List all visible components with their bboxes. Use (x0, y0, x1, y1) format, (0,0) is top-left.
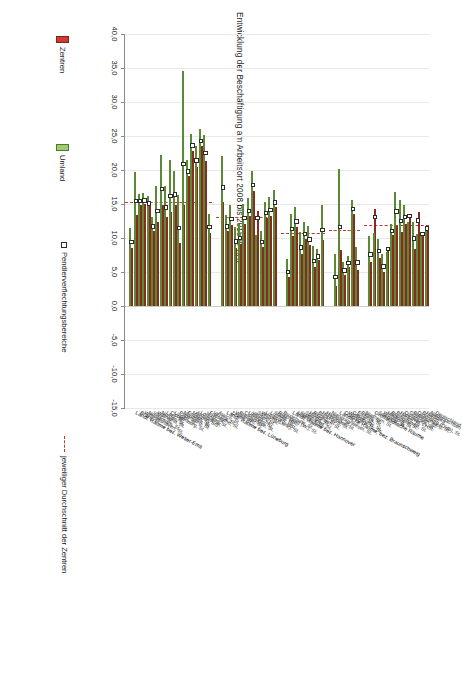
bar-zentren (344, 275, 346, 306)
marker-pendlerverflechtung (234, 239, 238, 243)
marker-pendlerverflechtung (373, 215, 377, 219)
marker-pendlerverflechtung (338, 225, 342, 229)
bar-zentren (357, 270, 359, 306)
bar-umland (416, 234, 418, 306)
marker-pendlerverflechtung (399, 219, 403, 223)
bar-zentren (201, 146, 203, 306)
bar-zentren (296, 227, 298, 306)
bar-umland (134, 172, 136, 306)
marker-pendlerverflechtung (381, 264, 385, 268)
bar-umland (355, 247, 357, 306)
bar-umland (255, 235, 257, 306)
marker-pendlerverflechtung (320, 228, 324, 232)
bar-umland (156, 186, 158, 306)
group-average-line (329, 230, 359, 231)
x-axis-line (124, 34, 125, 408)
bar-zentren (318, 260, 320, 306)
bar-zentren (427, 228, 429, 306)
marker-pendlerverflechtung (155, 209, 159, 213)
marker-pendlerverflechtung (225, 224, 229, 228)
bar-zentren (149, 206, 151, 306)
bar-umland (381, 254, 383, 306)
marker-pendlerverflechtung (190, 143, 194, 147)
legend-item-umland: Umland (56, 144, 69, 181)
bar-umland (268, 197, 270, 306)
bar-zentren (136, 215, 138, 306)
bar-umland (151, 217, 153, 306)
bar-umland (299, 232, 301, 306)
bar-zentren (131, 248, 133, 306)
axis-tick (121, 68, 125, 69)
marker-pendlerverflechtung (390, 229, 394, 233)
bar-zentren (305, 239, 307, 306)
bar-zentren (179, 243, 181, 306)
bar-umland (182, 71, 184, 306)
bar-zentren (262, 247, 264, 306)
bar-zentren (205, 161, 207, 306)
bar-umland (351, 200, 353, 306)
gridline (125, 340, 429, 341)
gridline (125, 374, 429, 375)
bar-zentren (209, 233, 211, 306)
bar-zentren (192, 151, 194, 306)
bar-umland (190, 134, 192, 306)
gridline (125, 136, 429, 137)
bar-umland (399, 200, 401, 306)
average-dash-icon (64, 436, 65, 452)
bar-zentren (240, 244, 242, 306)
axis-tick (121, 340, 125, 341)
bar-zentren (353, 214, 355, 306)
marker-pendlerverflechtung (394, 209, 398, 213)
marker-pendlerverflechtung (255, 216, 259, 220)
bar-zentren (270, 216, 272, 306)
gridline (125, 170, 429, 171)
axis-tick (121, 374, 125, 375)
marker-pendlerverflechtung (173, 192, 177, 196)
pendler-square-icon (62, 242, 68, 248)
marker-pendlerverflechtung (342, 268, 346, 272)
marker-pendlerverflechtung (333, 275, 337, 279)
bar-zentren (387, 248, 389, 306)
marker-pendlerverflechtung (273, 200, 277, 204)
bar-umland (203, 135, 205, 306)
marker-pendlerverflechtung (194, 158, 198, 162)
marker-pendlerverflechtung (221, 185, 225, 189)
bar-umland (321, 205, 323, 306)
marker-pendlerverflechtung (229, 217, 233, 221)
zentren-swatch-icon (56, 36, 69, 43)
bar-zentren (292, 236, 294, 306)
marker-pendlerverflechtung (377, 249, 381, 253)
x-tick-label: 40,0 (110, 27, 119, 42)
marker-pendlerverflechtung (312, 259, 316, 263)
bar-umland (334, 254, 336, 306)
x-tick-label: -10,0 (110, 365, 119, 382)
marker-pendlerverflechtung (181, 162, 185, 166)
bar-umland (251, 171, 253, 306)
marker-pendlerverflechtung (286, 270, 290, 274)
marker-pendlerverflechtung (268, 208, 272, 212)
axis-tick (121, 204, 125, 205)
marker-pendlerverflechtung (316, 254, 320, 258)
bar-umland (425, 228, 427, 306)
marker-pendlerverflechtung (351, 207, 355, 211)
bar-zentren (396, 226, 398, 306)
x-tick-label: 0,0 (110, 301, 119, 312)
marker-pendlerverflechtung (299, 245, 303, 249)
bar-umland (142, 193, 144, 306)
bar-zentren (414, 249, 416, 306)
marker-pendlerverflechtung (247, 209, 251, 213)
bar-zentren (409, 214, 411, 306)
gridline (125, 34, 429, 35)
marker-pendlerverflechtung (303, 232, 307, 236)
bar-zentren (335, 286, 337, 306)
marker-pendlerverflechtung (138, 199, 142, 203)
marker-pendlerverflechtung (164, 205, 168, 209)
bar-zentren (275, 207, 277, 306)
bar-zentren (422, 234, 424, 306)
bar-zentren (253, 191, 255, 306)
x-tick-label: 25,0 (110, 129, 119, 144)
bar-zentren (188, 176, 190, 306)
bar-umland (147, 196, 149, 306)
marker-pendlerverflechtung (264, 211, 268, 215)
